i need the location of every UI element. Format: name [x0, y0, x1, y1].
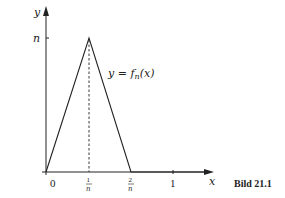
x-tick-label-2-over-n-num: 2 — [129, 176, 133, 184]
x-tick-label-1-over-n-num: 1 — [87, 176, 91, 184]
x-tick-label-1-over-n-den: n — [86, 185, 91, 193]
y-tick-label: n — [33, 32, 40, 45]
function-diagram: n y y = fn(x) 0 1 n 2 n 1 x Bild 21.1 — [0, 0, 285, 198]
function-label: y = fn(x) — [107, 67, 154, 81]
x-tick-label-1: 1 — [170, 177, 176, 189]
x-tick-label-2-over-n-den: n — [128, 185, 133, 193]
figure-caption: Bild 21.1 — [234, 178, 272, 189]
y-axis-label: y — [33, 6, 41, 19]
x-axis-label: x — [209, 175, 216, 188]
y-axis-arrow-icon — [43, 6, 49, 16]
function-label-arg: (x) — [140, 67, 155, 80]
function-graph — [46, 38, 206, 172]
x-tick-label-0: 0 — [50, 177, 56, 189]
function-label-main: y = f — [107, 67, 136, 80]
